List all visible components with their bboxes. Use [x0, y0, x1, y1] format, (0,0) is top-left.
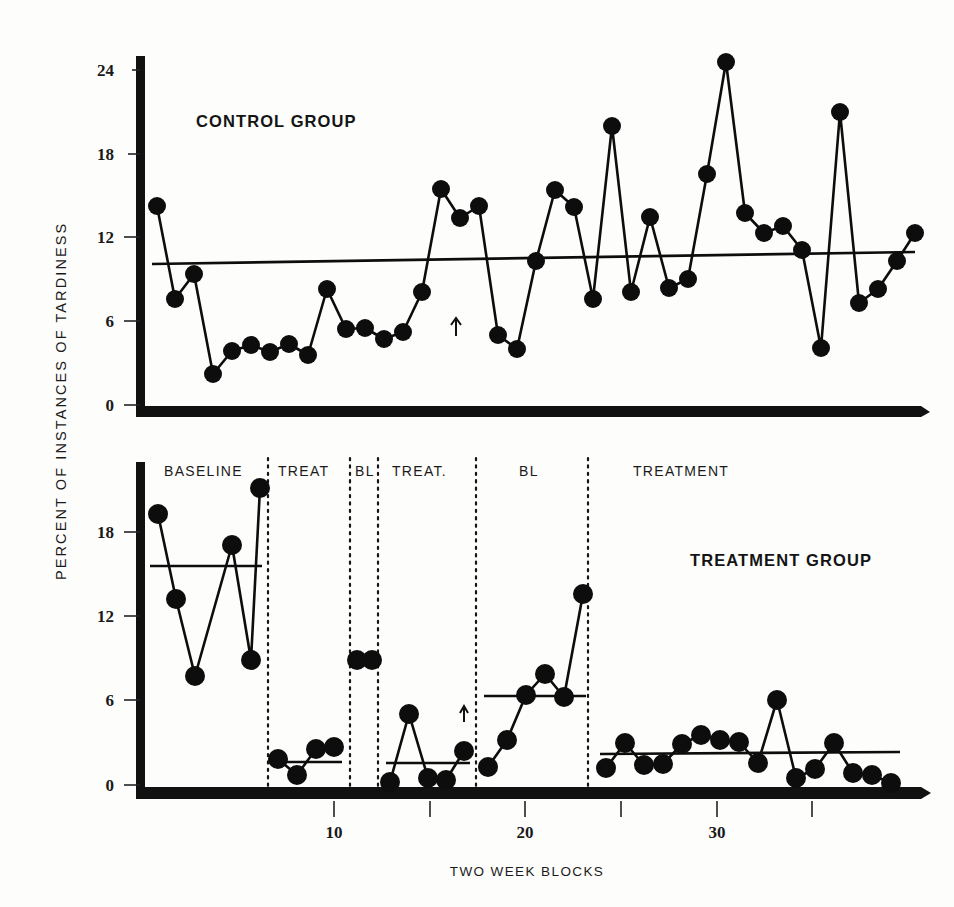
top-ytick-0: 0 [106, 396, 115, 415]
top-ytick-12: 12 [97, 228, 114, 247]
bottom-ytick-12: 12 [97, 607, 114, 626]
control-event-arrow-icon [451, 318, 461, 336]
x-axis-title: TWO WEEK BLOCKS [450, 864, 605, 879]
top-ytick-18: 18 [97, 145, 114, 164]
treatment-mean-line [600, 752, 900, 754]
top-ytick-24: 24 [97, 61, 115, 80]
top-x-axis-cap [921, 406, 930, 417]
phase-label-treat-2: TREAT. [392, 463, 447, 479]
tardiness-figure: PERCENT OF INSTANCES OF TARDINESS 0 6 12… [0, 0, 954, 907]
bl2-markers [478, 584, 593, 777]
bl1-markers [347, 650, 382, 670]
bottom-ytick-6: 6 [106, 691, 115, 710]
control-series-line [157, 62, 915, 374]
control-data-markers [148, 53, 924, 383]
bottom-ytick-0: 0 [106, 776, 115, 795]
y-axis-title: PERCENT OF INSTANCES OF TARDINESS [53, 222, 69, 580]
bottom-y-axis [136, 462, 145, 792]
treatment-group-title: TREATMENT GROUP [690, 551, 872, 569]
xtick-20: 20 [517, 823, 534, 842]
phase-label-bl-2: BL [519, 463, 539, 479]
bottom-x-axis-cap [921, 787, 931, 799]
bottom-x-axis [136, 787, 921, 799]
top-ytick-6: 6 [106, 312, 115, 331]
bottom-ytick-18: 18 [97, 523, 114, 542]
treatment-event-arrow-icon [460, 706, 468, 722]
figure-canvas: PERCENT OF INSTANCES OF TARDINESS 0 6 12… [0, 0, 954, 907]
phase-label-baseline: BASELINE [164, 463, 243, 479]
treat2-markers [380, 704, 474, 792]
phase-label-treatment: TREATMENT [633, 463, 729, 479]
x-ticks [334, 801, 812, 817]
xtick-10: 10 [326, 823, 343, 842]
phase-dividers [268, 458, 588, 786]
baseline-markers [148, 478, 270, 686]
top-x-axis [136, 406, 921, 417]
control-group-title: CONTROL GROUP [196, 112, 357, 130]
treatment-markers [596, 690, 901, 793]
phase-label-bl-1: BL [355, 463, 375, 479]
top-y-axis [136, 56, 145, 412]
xtick-30: 30 [709, 823, 726, 842]
baseline-series-line [158, 488, 260, 676]
phase-label-treat-1: TREAT [278, 463, 329, 479]
